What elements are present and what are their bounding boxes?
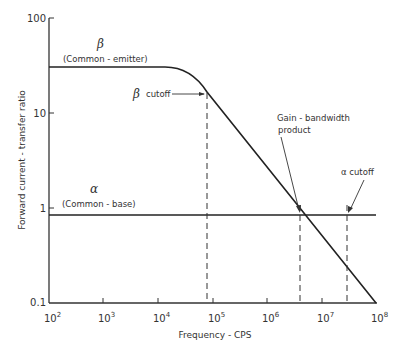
beta-desc: (Common - emitter) bbox=[63, 54, 148, 64]
y-tick-label-10: 10 bbox=[33, 108, 46, 119]
gbw-label-line1: Gain - bandwidth bbox=[277, 113, 350, 123]
y-tick-label-1: 1 bbox=[40, 203, 46, 214]
frequency-response-chart: 100 10 1 0.1 102 103 104 105 106 107 108… bbox=[0, 0, 399, 351]
y-tick-label-0.1: 0.1 bbox=[30, 297, 46, 308]
x-tick-label: 103 bbox=[98, 311, 115, 324]
alpha-cutoff-label: α cutoff bbox=[341, 167, 375, 177]
x-tick-label: 108 bbox=[371, 311, 388, 324]
y-axis-title: Forward current - transfer ratio bbox=[17, 90, 27, 230]
x-tick-label: 105 bbox=[208, 311, 225, 324]
alpha-desc: (Common - base) bbox=[62, 199, 136, 209]
y-tick-label-100: 100 bbox=[27, 13, 46, 24]
alpha-cutoff-arrow bbox=[350, 180, 364, 210]
beta-cutoff-label: cutoff bbox=[146, 89, 172, 99]
x-tick-label: 107 bbox=[317, 311, 334, 324]
beta-label: β bbox=[96, 37, 104, 51]
x-axis-title: Frequency - CPS bbox=[179, 330, 252, 340]
arrowhead-icon bbox=[199, 92, 205, 96]
beta-cutoff-symbol: β bbox=[132, 87, 140, 101]
gbw-arrow bbox=[281, 137, 299, 210]
arrowhead-icon bbox=[348, 206, 353, 213]
alpha-label: α bbox=[90, 182, 98, 196]
x-tick-labels: 102 103 104 105 106 107 108 bbox=[44, 311, 388, 324]
x-tick-label: 102 bbox=[44, 311, 61, 324]
x-tick-label: 106 bbox=[262, 311, 280, 324]
gbw-label-line2: product bbox=[278, 125, 311, 135]
arrowhead-icon bbox=[296, 205, 301, 213]
x-tick-label: 104 bbox=[153, 311, 171, 324]
